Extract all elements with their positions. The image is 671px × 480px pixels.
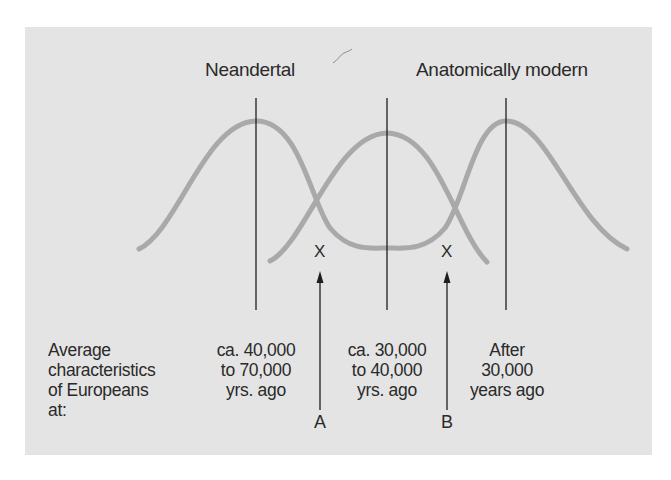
period-label-transitional: ca. 30,000 to 40,000 yrs. ago xyxy=(327,340,447,400)
period-line: After xyxy=(447,340,567,360)
row-label-line: characteristics xyxy=(48,360,155,380)
period-line: to 40,000 xyxy=(327,360,447,380)
label-anatomically-modern: Anatomically modern xyxy=(416,60,588,80)
period-line: yrs. ago xyxy=(196,380,316,400)
row-label-line: at: xyxy=(48,400,155,420)
pointer-label-a: A xyxy=(314,413,326,431)
crossover-mark-a: X xyxy=(314,243,325,261)
period-line: yrs. ago xyxy=(327,380,447,400)
label-neandertal: Neandertal xyxy=(205,60,295,80)
stray-mark xyxy=(333,49,352,63)
arrowhead-b-icon xyxy=(444,271,451,283)
period-label-modern: After 30,000 years ago xyxy=(447,340,567,400)
period-label-neandertal: ca. 40,000 to 70,000 yrs. ago xyxy=(196,340,316,400)
neandertal-modern-curve xyxy=(139,121,627,249)
crossover-mark-b: X xyxy=(441,243,452,261)
pointer-label-b: B xyxy=(441,413,453,431)
arrowhead-a-icon xyxy=(317,271,324,283)
period-line: to 70,000 xyxy=(196,360,316,380)
row-label-line: Average xyxy=(48,340,155,360)
row-label-line: of Europeans xyxy=(48,380,155,400)
period-line: years ago xyxy=(447,380,567,400)
period-line: ca. 40,000 xyxy=(196,340,316,360)
row-label: Average characteristics of Europeans at: xyxy=(48,340,155,420)
period-line: ca. 30,000 xyxy=(327,340,447,360)
transitional-curve xyxy=(270,133,487,262)
period-line: 30,000 xyxy=(447,360,567,380)
